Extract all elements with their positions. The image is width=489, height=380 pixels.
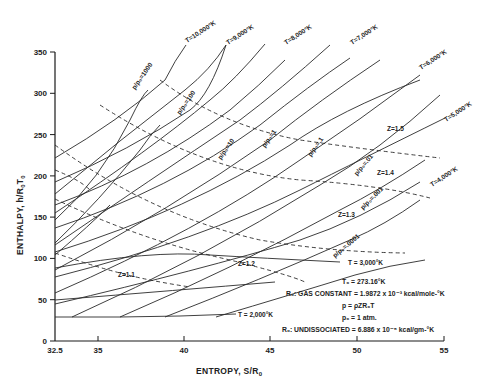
label-p001: p/p₀=.01 (352, 152, 375, 177)
y-tick-label: 200 (34, 172, 48, 181)
note-equation: p = ρZR₀T (342, 302, 375, 310)
y-tick-label: 350 (34, 48, 48, 57)
label-t6000: T=6,000°K (418, 48, 449, 72)
isobar-10 (55, 45, 330, 245)
notes: T₀ = 273.16°K R₀: GAS CONSTANT = 1.9872 … (282, 278, 445, 334)
x-tick-label: 50 (353, 346, 362, 355)
label-t2000: T = 2,000°K (238, 311, 273, 319)
z-line-1.4 (100, 105, 430, 198)
label-t3000: T = 3,000°K (348, 259, 383, 267)
label-p10: p/p₀=10 (216, 137, 236, 161)
label-p1000: p/p₀=1000 (130, 61, 155, 91)
label-t5000: T=5,000°K (443, 100, 474, 124)
y-tick-label: 250 (34, 131, 48, 140)
note-t0: T₀ = 273.16°K (342, 278, 385, 285)
y-tick-label: 0 (43, 337, 48, 346)
label-t7000: T=7,000°K (349, 23, 380, 47)
label-z13: Z=1.3 (338, 211, 355, 218)
x-tick-label: 35 (94, 346, 103, 355)
x-tick-label: 40 (180, 346, 189, 355)
label-z14: Z=1.4 (377, 169, 394, 176)
y-axis-label: ENTHALPY, h/R0T0 (15, 175, 26, 255)
note-gas-constant: R₀: GAS CONSTANT = 1.9872 x 10⁻³ kcal/mo… (286, 290, 445, 297)
label-z12: Z=1.2 (238, 260, 255, 267)
isobar-1000-b (55, 45, 226, 194)
y-tick-label: 300 (34, 89, 48, 98)
label-t9000: T=9,000°K (225, 23, 256, 47)
y-tick-label: 150 (34, 213, 48, 222)
label-z15: Z=1.5 (387, 125, 404, 132)
isotherm-5000 (55, 118, 445, 277)
x-tick-label: 45 (266, 346, 275, 355)
label-z11: Z=1.1 (118, 271, 135, 278)
label-t4000: T=4,000°K (429, 165, 460, 189)
y-tick-label: 50 (38, 296, 47, 305)
isotherms (55, 45, 445, 317)
isobar-000001 (216, 260, 425, 317)
compressibility-lines (55, 80, 440, 287)
z-line-1.2 (55, 199, 305, 282)
label-p01: p/p₀=.1 (306, 135, 325, 158)
x-tick-label: 55 (440, 346, 449, 355)
svg-text:ENTHALPY, h/R0T0: ENTHALPY, h/R0T0 (15, 175, 26, 255)
isotherm-2000 (55, 314, 236, 317)
note-undissociated: R₀: UNDISSOCIATED = 6.886 x 10⁻⁵ kcal/gm… (282, 326, 434, 334)
isotherm-9000 (55, 45, 226, 182)
x-ticks: 32.5 35 40 45 50 55 (47, 336, 449, 355)
y-ticks: 0 50 100 150 200 250 300 350 (34, 48, 55, 346)
x-tick-label: 32.5 (47, 346, 63, 355)
x-axis-label: ENTROPY, S/R0 (196, 366, 263, 377)
y-tick-label: 100 (34, 254, 48, 263)
label-t8000: T=8,000°K (283, 23, 314, 47)
label-t10000: T=10,000°K (184, 19, 218, 45)
note-p0: p₀ = 1 atm. (342, 314, 377, 322)
mollier-chart: 0 50 100 150 200 250 300 350 32.5 35 40 … (0, 0, 489, 380)
isotherm-7000 (55, 58, 350, 228)
curve-labels: T=10,000°K T=9,000°K T=8,000°K T=7,000°K… (118, 19, 474, 319)
